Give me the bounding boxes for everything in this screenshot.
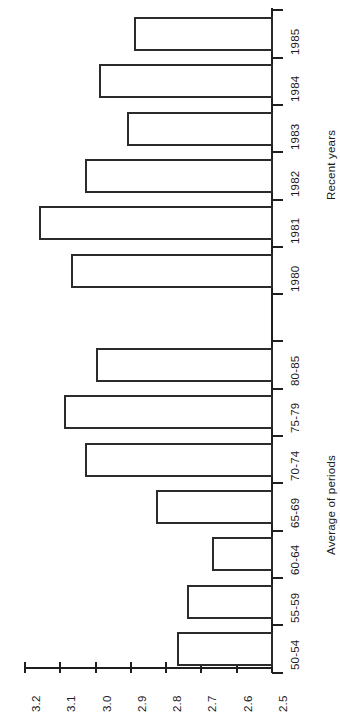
- bar: [39, 206, 273, 240]
- bar: [85, 443, 273, 477]
- value-axis-tick-label: 2.6: [242, 695, 254, 712]
- category-axis-tick: [272, 151, 283, 153]
- category-label: 1984: [289, 76, 301, 102]
- bar: [187, 585, 273, 619]
- category-label: 70-74: [289, 450, 301, 480]
- value-axis-tick-label: 3.1: [65, 695, 77, 712]
- value-axis-tick: [24, 662, 26, 673]
- value-axis-tick-label: 3.2: [30, 695, 42, 712]
- bar-chart: 3.23.13.02.92.82.72.62.51985198419831982…: [0, 0, 340, 719]
- category-axis-tick: [272, 388, 283, 390]
- bar: [177, 632, 273, 666]
- category-axis-tick: [272, 9, 283, 11]
- category-axis-tick: [272, 340, 283, 342]
- category-label: 1985: [289, 29, 301, 55]
- category-label: 1981: [289, 218, 301, 244]
- bar: [156, 490, 273, 524]
- category-label: 55-59: [289, 592, 301, 622]
- value-axis-tick: [95, 662, 97, 673]
- category-label: 60-64: [289, 545, 301, 575]
- value-axis-tick-label: 3.0: [101, 695, 113, 712]
- category-axis-tick: [272, 577, 283, 579]
- category-label: 80-85: [289, 356, 301, 386]
- axis-title: Recent years: [325, 130, 337, 200]
- value-axis-tick: [130, 662, 132, 673]
- category-axis-tick: [272, 199, 283, 201]
- bar: [127, 112, 273, 146]
- category-axis-tick: [272, 530, 283, 532]
- category-axis-tick: [272, 482, 283, 484]
- category-label: 50-54: [289, 639, 301, 669]
- plot-area: 3.23.13.02.92.82.72.62.51985198419831982…: [0, 0, 340, 719]
- bar: [212, 537, 273, 571]
- bar: [64, 395, 273, 429]
- category-axis-tick: [272, 672, 283, 674]
- bar: [134, 17, 273, 51]
- category-axis-tick: [272, 435, 283, 437]
- category-label: 1983: [289, 123, 301, 149]
- value-axis-tick: [59, 662, 61, 673]
- axis-title: Average of periods: [325, 455, 337, 555]
- category-label: 1982: [289, 171, 301, 197]
- bar: [99, 64, 273, 98]
- bar: [85, 159, 273, 193]
- category-label: 65-69: [289, 498, 301, 528]
- category-axis-tick: [272, 293, 283, 295]
- category-axis-tick: [272, 104, 283, 106]
- bar: [71, 254, 273, 288]
- category-label: 75-79: [289, 403, 301, 433]
- value-axis-tick: [165, 662, 167, 673]
- category-axis-tick: [272, 246, 283, 248]
- value-axis-tick-label: 2.7: [206, 695, 218, 712]
- value-axis-tick-label: 2.9: [136, 695, 148, 712]
- category-axis-tick: [272, 57, 283, 59]
- value-axis-tick-label: 2.8: [171, 695, 183, 712]
- value-axis-tick-label: 2.5: [277, 695, 289, 712]
- category-label: 1980: [289, 265, 301, 291]
- category-axis-tick: [272, 624, 283, 626]
- bar: [96, 348, 273, 382]
